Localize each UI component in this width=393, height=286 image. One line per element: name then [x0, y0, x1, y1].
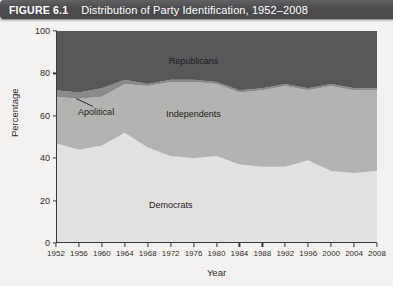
figure-title: Distribution of Party Identification, 19… — [81, 4, 308, 16]
y-tick-label: 60 — [40, 111, 50, 121]
x-tick-mark — [262, 243, 263, 247]
figure-number: FIGURE 6.1 — [9, 4, 68, 16]
y-tick-label: 40 — [40, 153, 50, 163]
y-tick-mark — [53, 115, 57, 116]
y-tick-label: 100 — [35, 26, 50, 36]
x-tick-mark — [55, 243, 56, 247]
x-tick-mark — [353, 243, 354, 247]
figure-header-bar: FIGURE 6.1 Distribution of Party Identif… — [0, 0, 393, 19]
x-tick-mark — [193, 243, 194, 247]
y-tick-mark — [53, 30, 57, 31]
x-tick-label: 1984 — [231, 249, 249, 258]
x-tick-label: 2004 — [345, 249, 363, 258]
plot-frame — [56, 31, 377, 243]
header-shadow — [0, 19, 393, 22]
x-tick-label: 1988 — [253, 249, 271, 258]
x-tick-label: 1972 — [162, 249, 180, 258]
y-tick-label: 20 — [40, 196, 50, 206]
x-tick-label: 1960 — [93, 249, 111, 258]
x-tick-label: 1964 — [116, 249, 134, 258]
x-tick-mark — [216, 243, 217, 247]
x-tick-mark — [170, 243, 171, 247]
x-tick-mark — [331, 243, 332, 247]
x-tick-mark — [308, 243, 309, 247]
x-tick-label: 1956 — [70, 249, 88, 258]
x-tick-mark — [78, 243, 79, 247]
plot-area: 020406080100 195219561960196419681972197… — [56, 31, 377, 243]
x-tick-label: 1992 — [276, 249, 294, 258]
x-tick-label: 1980 — [208, 249, 226, 258]
x-axis-title: Year — [56, 267, 377, 278]
x-tick-label: 2000 — [322, 249, 340, 258]
y-tick-label: 0 — [45, 238, 50, 248]
y-tick-mark — [53, 73, 57, 74]
y-tick-label: 80 — [40, 68, 50, 78]
x-tick-mark — [285, 243, 286, 247]
y-tick-mark — [53, 200, 57, 201]
x-tick-mark — [376, 243, 377, 247]
x-tick-mark — [239, 243, 240, 247]
x-tick-mark — [124, 243, 125, 247]
figure-container: FIGURE 6.1 Distribution of Party Identif… — [0, 0, 393, 286]
x-tick-label: 1976 — [185, 249, 203, 258]
x-tick-mark — [101, 243, 102, 247]
x-tick-label: 2008 — [368, 249, 386, 258]
x-tick-label: 1968 — [139, 249, 157, 258]
x-tick-label: 1952 — [47, 249, 65, 258]
x-tick-label: 1996 — [299, 249, 317, 258]
x-tick-mark — [147, 243, 148, 247]
y-axis-title: Percentage — [9, 88, 20, 137]
y-tick-mark — [53, 158, 57, 159]
